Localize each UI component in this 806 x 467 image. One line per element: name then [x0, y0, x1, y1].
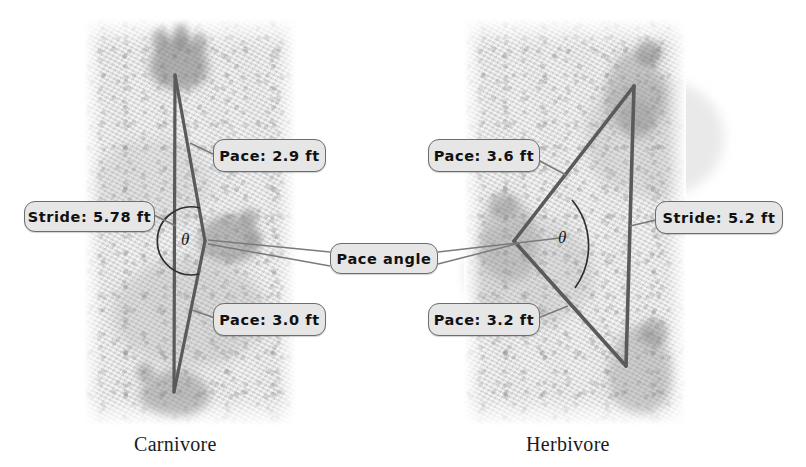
carnivore-pace-top-segment: [175, 75, 205, 241]
leader-pace-angle-right-upper: [438, 238, 560, 252]
callout-herbivore-pace-bottom[interactable]: Pace: 3.2 ft: [428, 303, 540, 336]
pace-angle-symbol-carnivore: θ: [181, 230, 189, 250]
leader-pace-angle-left-upper: [208, 240, 330, 252]
carnivore-stride-segment: [174, 75, 175, 392]
herbivore-pace-angle-arc: [572, 200, 589, 288]
caption-herbivore: Herbivore: [526, 433, 610, 456]
leader-carnivore-pace-bottom: [192, 310, 215, 318]
callout-carnivore-pace-top[interactable]: Pace: 2.9 ft: [213, 139, 326, 172]
callout-carnivore-pace-bottom[interactable]: Pace: 3.0 ft: [213, 303, 326, 336]
carnivore-pace-angle-arc: [157, 207, 200, 275]
leader-carnivore-pace-top: [190, 143, 215, 155]
callout-carnivore-stride[interactable]: Stride: 5.78 ft: [24, 201, 155, 232]
dinosaur-track-figure: Pace: 2.9 ft Stride: 5.78 ft Pace: 3.0 f…: [0, 0, 806, 467]
carnivore-pace-bottom-segment: [174, 241, 205, 392]
pace-angle-symbol-herbivore: θ: [558, 228, 566, 248]
leader-pace-angle-left-lower: [208, 244, 330, 266]
callout-herbivore-pace-top[interactable]: Pace: 3.6 ft: [428, 139, 540, 172]
leader-herbivore-stride: [630, 220, 656, 226]
leader-carnivore-stride: [152, 214, 176, 226]
caption-carnivore: Carnivore: [134, 433, 217, 456]
callout-herbivore-stride[interactable]: Stride: 5.2 ft: [655, 201, 783, 234]
leader-herbivore-pace-top: [538, 160, 566, 175]
leader-herbivore-pace-bottom: [538, 306, 568, 318]
leader-pace-angle-right-lower: [438, 243, 520, 264]
callout-pace-angle[interactable]: Pace angle: [330, 243, 438, 274]
